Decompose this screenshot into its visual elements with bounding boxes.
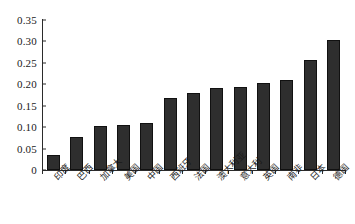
bar xyxy=(140,123,153,170)
bar xyxy=(327,40,340,170)
bar-slot xyxy=(89,20,112,170)
bar-slot xyxy=(182,20,205,170)
bar xyxy=(94,126,107,170)
bar xyxy=(304,60,317,170)
x-label-slot: 美国 xyxy=(112,173,135,223)
bar-slot xyxy=(135,20,158,170)
bar-slot xyxy=(252,20,275,170)
y-tick-label: 0 xyxy=(31,165,42,176)
bar-slot xyxy=(159,20,182,170)
y-tick-label: 0.35 xyxy=(17,15,42,26)
plot-area: 0.350.300.250.200.150.100.050 xyxy=(42,20,345,170)
x-label-slot: 巴西 xyxy=(65,173,88,223)
bar xyxy=(210,88,223,170)
x-label-slot: 西班牙 xyxy=(159,173,182,223)
x-label-slot: 意大利 xyxy=(229,173,252,223)
bar-slot xyxy=(275,20,298,170)
x-label-slot: 法国 xyxy=(182,173,205,223)
x-label-slot: 中国 xyxy=(135,173,158,223)
bar-slot xyxy=(112,20,135,170)
bar-slot xyxy=(298,20,321,170)
bar-chart: 0.350.300.250.200.150.100.050 印度巴西加拿大美国中… xyxy=(0,0,355,224)
x-label-slot: 南非 xyxy=(275,173,298,223)
bar-slot xyxy=(65,20,88,170)
bar-slot xyxy=(205,20,228,170)
bar-slot xyxy=(229,20,252,170)
y-tick-label: 0.20 xyxy=(17,79,42,90)
y-tick-label: 0.10 xyxy=(17,122,42,133)
x-label-slot: 澳大利亚 xyxy=(205,173,228,223)
x-label-slot: 德国 xyxy=(322,173,345,223)
x-label-slot: 印度 xyxy=(42,173,65,223)
bar xyxy=(280,80,293,170)
x-label-slot: 加拿大 xyxy=(89,173,112,223)
x-label-slot: 日本 xyxy=(298,173,321,223)
y-tick-label: 0.15 xyxy=(17,100,42,111)
bar-slot xyxy=(42,20,65,170)
x-axis-labels: 印度巴西加拿大美国中国西班牙法国澳大利亚意大利英国南非日本德国 xyxy=(42,173,345,223)
y-tick-label: 0.25 xyxy=(17,57,42,68)
x-label-slot: 英国 xyxy=(252,173,275,223)
y-tick-label: 0.05 xyxy=(17,143,42,154)
bar xyxy=(70,137,83,170)
bar-series xyxy=(42,20,345,170)
bar-slot xyxy=(322,20,345,170)
bar xyxy=(164,98,177,170)
y-tick-label: 0.30 xyxy=(17,36,42,47)
